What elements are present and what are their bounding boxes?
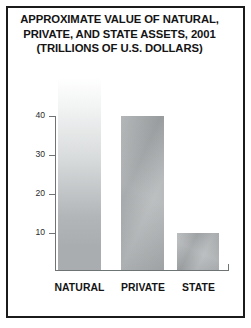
x-axis-line: [55, 270, 229, 271]
y-axis-line: [55, 116, 56, 271]
y-tick-label-10: 10: [23, 227, 45, 237]
y-tick-label-40: 40: [23, 110, 45, 120]
bar-chart-figure: APPROXIMATE VALUE OF NATURAL, PRIVATE, A…: [0, 0, 251, 328]
plot-area: 40 30 20 10 NATURAL PRIVATE STATE: [0, 0, 251, 328]
bar-private: [121, 116, 164, 270]
y-tick-label-20: 20: [23, 188, 45, 198]
y-tick-20: [49, 194, 55, 195]
bar-natural: [58, 78, 101, 270]
bar-state: [177, 233, 219, 270]
x-label-private: PRIVATE: [117, 282, 169, 293]
y-tick-10: [49, 233, 55, 234]
y-tick-label-30: 30: [23, 149, 45, 159]
x-label-state: STATE: [176, 282, 221, 293]
x-label-natural: NATURAL: [52, 282, 107, 293]
y-tick-30: [49, 155, 55, 156]
x-axis-end-tick: [228, 264, 229, 271]
y-tick-40: [49, 116, 55, 117]
